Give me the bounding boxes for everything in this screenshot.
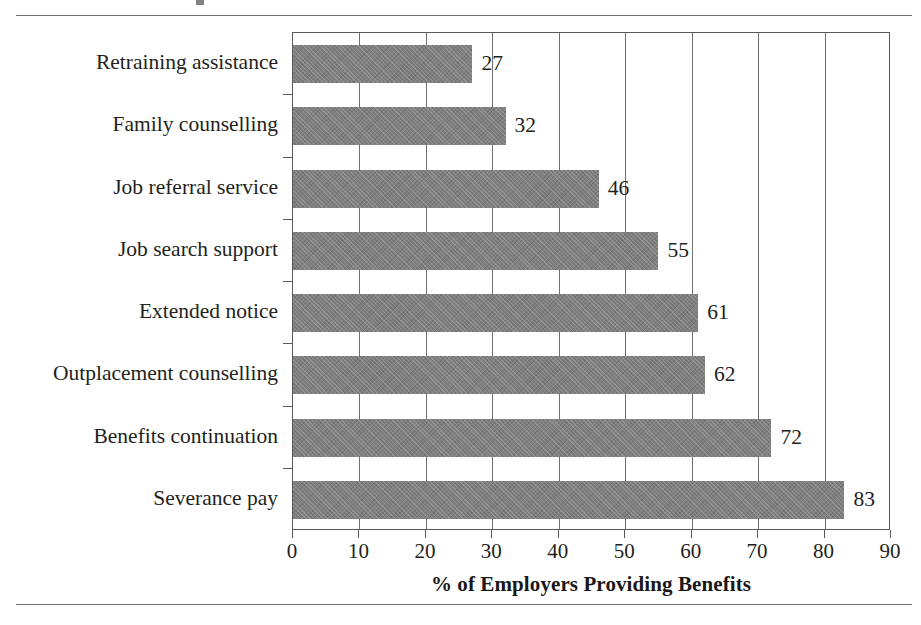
bar-value-label: 61 <box>707 302 729 324</box>
value-axis: 0102030405060708090 <box>292 530 890 570</box>
bar-value-label: 62 <box>714 364 736 386</box>
category-label: Job search support <box>118 239 278 261</box>
category-label: Retraining assistance <box>96 52 278 74</box>
x-axis-tick-label: 80 <box>813 541 834 562</box>
x-axis-tick-40 <box>558 530 559 538</box>
bar <box>293 107 506 145</box>
bar <box>293 170 599 208</box>
x-axis-tick-label: 50 <box>614 541 635 562</box>
x-axis-tick-label: 40 <box>547 541 568 562</box>
x-axis-tick-0 <box>292 530 293 538</box>
x-axis-tick-20 <box>425 530 426 538</box>
bar <box>293 419 771 457</box>
category-tick <box>283 157 292 158</box>
bar <box>293 481 844 519</box>
category-label: Benefits continuation <box>93 426 278 448</box>
x-axis-tick-label: 0 <box>287 541 298 562</box>
x-axis-tick-90 <box>890 530 891 538</box>
x-axis-tick-label: 90 <box>880 541 901 562</box>
x-axis-tick-60 <box>691 530 692 538</box>
cropped-title-fragment <box>196 0 204 5</box>
bar <box>293 45 472 83</box>
category-label: Family counselling <box>113 114 278 136</box>
x-axis-tick-label: 70 <box>747 541 768 562</box>
bar-value-label: 55 <box>667 240 689 262</box>
x-axis-tick-label: 20 <box>414 541 435 562</box>
x-axis-tick-label: 10 <box>348 541 369 562</box>
category-tick <box>283 281 292 282</box>
x-axis-tick-30 <box>491 530 492 538</box>
x-axis-tick-label: 60 <box>680 541 701 562</box>
x-axis-tick-10 <box>358 530 359 538</box>
bar <box>293 232 658 270</box>
bar <box>293 356 705 394</box>
bar-value-label: 46 <box>608 178 630 200</box>
x-axis-tick-label: 30 <box>481 541 502 562</box>
x-axis-title: % of Employers Providing Benefits <box>292 572 890 597</box>
category-tick <box>283 468 292 469</box>
x-axis-tick-70 <box>757 530 758 538</box>
category-tick <box>283 94 292 95</box>
category-label: Job referral service <box>113 177 278 199</box>
category-label: Extended notice <box>139 301 278 323</box>
gridline-80 <box>825 33 826 529</box>
category-tick <box>283 219 292 220</box>
bar-value-label: 32 <box>515 115 537 137</box>
bar <box>293 294 698 332</box>
category-label: Severance pay <box>153 488 278 510</box>
category-tick <box>283 343 292 344</box>
x-axis-tick-80 <box>824 530 825 538</box>
category-axis: Retraining assistanceFamily counsellingJ… <box>0 32 292 530</box>
category-tick <box>283 406 292 407</box>
figure-top-rule <box>16 15 912 16</box>
category-label: Outplacement counselling <box>53 363 278 385</box>
bar-value-label: 27 <box>481 53 503 75</box>
bar-value-label: 83 <box>853 489 875 511</box>
plot-area: 2732465561627283 <box>292 32 890 530</box>
x-axis-tick-50 <box>624 530 625 538</box>
bar-value-label: 72 <box>780 427 802 449</box>
figure-bottom-rule <box>16 604 912 605</box>
